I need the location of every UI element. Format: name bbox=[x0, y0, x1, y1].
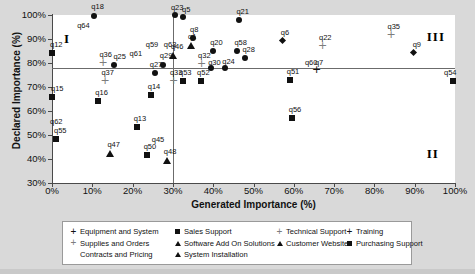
legend-plus-gray-icon: + bbox=[275, 226, 284, 238]
legend-item-label: Sales Support bbox=[184, 227, 232, 236]
point-label: q36 bbox=[99, 51, 112, 59]
x-tick-label: 100% bbox=[435, 186, 475, 196]
point-marker-plus: + bbox=[197, 60, 205, 68]
point-label: q50 bbox=[144, 143, 157, 151]
y-tick-label: 50% bbox=[2, 130, 46, 140]
point-label: q62 bbox=[50, 118, 63, 126]
point-label: q16 bbox=[95, 89, 108, 97]
point-label: q22 bbox=[319, 34, 332, 42]
point-marker-tri bbox=[187, 42, 195, 49]
point-label: q25 bbox=[113, 53, 126, 61]
point-label: q30 bbox=[208, 59, 221, 67]
top-band bbox=[0, 0, 475, 4]
legend-item[interactable]: Software Add On Solutions bbox=[173, 238, 275, 250]
point-marker-circ bbox=[172, 12, 178, 18]
point-label: q24 bbox=[222, 58, 235, 66]
legend-triangle-icon bbox=[173, 238, 182, 249]
legend-item-label: Purchasing Support bbox=[356, 239, 423, 248]
quadrant-label: III bbox=[427, 29, 445, 45]
x-tick-label: 70% bbox=[314, 186, 354, 196]
y-tick-mark bbox=[48, 15, 52, 16]
x-tick-mark bbox=[334, 183, 335, 187]
point-label: q35 bbox=[388, 23, 401, 31]
x-tick-mark bbox=[133, 183, 134, 187]
x-tick-label: 10% bbox=[72, 186, 112, 196]
x-tick-label: 40% bbox=[193, 186, 233, 196]
legend-triangle-icon bbox=[275, 238, 284, 249]
point-label: q7 bbox=[315, 59, 323, 67]
point-label: q9 bbox=[413, 41, 421, 49]
legend-item[interactable]: Customer Website bbox=[275, 238, 348, 250]
point-marker-sq bbox=[144, 152, 150, 158]
point-marker-sq bbox=[49, 50, 55, 56]
point-marker-sq bbox=[95, 98, 101, 104]
legend-square-icon bbox=[173, 226, 182, 237]
legend-item[interactable]: Purchasing Support bbox=[345, 238, 423, 250]
legend-plus-black-icon: + bbox=[69, 226, 78, 238]
quadrant-label: II bbox=[427, 146, 439, 162]
x-tick-mark bbox=[92, 183, 93, 187]
point-marker-sq bbox=[148, 92, 154, 98]
point-label: q51 bbox=[287, 68, 300, 76]
y-tick-mark bbox=[48, 159, 52, 160]
point-label: q12 bbox=[50, 41, 63, 49]
legend-plus-gray-icon: + bbox=[69, 237, 78, 249]
legend-column: +Technical SupportCustomer Website bbox=[275, 226, 348, 249]
point-label: q64 bbox=[77, 22, 90, 30]
legend-triangle-icon bbox=[173, 249, 182, 260]
legend-column: +TrainingPurchasing Support bbox=[345, 226, 423, 249]
quadrant-label: I bbox=[64, 31, 70, 47]
chart-screenshot: 30%40%50%60%70%80%90%100% 0%10%20%30%40%… bbox=[0, 0, 475, 274]
legend-item[interactable]: Contracts and Pricing bbox=[69, 249, 159, 261]
point-label: q27 bbox=[150, 61, 163, 69]
legend-item[interactable]: +Training bbox=[345, 226, 423, 238]
point-label: q21 bbox=[236, 8, 249, 16]
y-tick-mark bbox=[48, 111, 52, 112]
point-marker-tri bbox=[163, 157, 171, 164]
x-tick-label: 90% bbox=[395, 186, 435, 196]
point-label: q18 bbox=[91, 3, 104, 11]
y-tick-label: 100% bbox=[2, 10, 46, 20]
point-marker-plus: + bbox=[387, 31, 395, 39]
legend-item[interactable]: +Technical Support bbox=[275, 226, 348, 238]
point-label: q56 bbox=[289, 106, 302, 114]
point-marker-plus: + bbox=[318, 42, 326, 50]
legend-square-icon bbox=[345, 238, 354, 249]
point-marker-sq bbox=[134, 124, 140, 130]
legend-item-label: Supplies and Orders bbox=[80, 239, 149, 248]
y-tick-label: 70% bbox=[2, 82, 46, 92]
point-label: q1 bbox=[188, 33, 196, 41]
x-tick-label: 0% bbox=[32, 186, 72, 196]
legend-item-label: Software Add On Solutions bbox=[184, 239, 275, 248]
y-tick-mark bbox=[48, 135, 52, 136]
point-label: q55 bbox=[54, 127, 67, 135]
legend-item[interactable]: +Equipment and System bbox=[69, 226, 159, 238]
y-tick-label: 40% bbox=[2, 154, 46, 164]
legend-item[interactable]: System Installation bbox=[173, 249, 275, 261]
y-tick-label: 80% bbox=[2, 58, 46, 68]
point-label: q47 bbox=[107, 141, 120, 149]
x-tick-label: 20% bbox=[113, 186, 153, 196]
point-label: q54 bbox=[444, 69, 457, 77]
point-marker-plus: + bbox=[100, 77, 108, 85]
point-label: q28 bbox=[242, 46, 255, 54]
x-tick-mark bbox=[455, 183, 456, 187]
chart-legend: +Equipment and System+Supplies and Order… bbox=[62, 221, 412, 265]
legend-item-label: Equipment and System bbox=[80, 227, 159, 236]
legend-item[interactable]: Sales Support bbox=[173, 226, 275, 238]
point-label: q48 bbox=[164, 148, 177, 156]
x-tick-label: 60% bbox=[274, 186, 314, 196]
x-tick-mark bbox=[374, 183, 375, 187]
legend-plus-black-icon: + bbox=[345, 226, 354, 238]
point-marker-sq bbox=[53, 136, 59, 142]
point-label: q37 bbox=[101, 69, 114, 77]
y-axis-title: Declared Importance (%) bbox=[11, 11, 22, 171]
legend-item-label: Technical Support bbox=[286, 227, 346, 236]
point-label: q6 bbox=[281, 29, 289, 37]
x-tick-mark bbox=[213, 183, 214, 187]
point-label: q52 bbox=[197, 69, 210, 77]
legend-item[interactable]: +Supplies and Orders bbox=[69, 238, 159, 250]
y-tick-label: 60% bbox=[2, 106, 46, 116]
x-axis-title: Generated Importance (%) bbox=[52, 199, 455, 210]
legend-column: +Equipment and System+Supplies and Order… bbox=[69, 226, 159, 261]
